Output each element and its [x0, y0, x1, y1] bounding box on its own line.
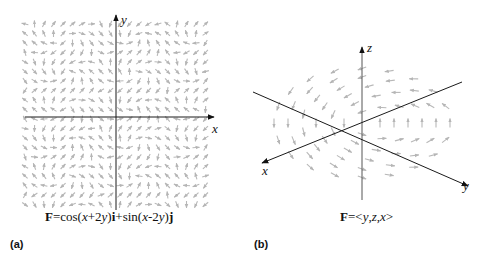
panel-label-b: (b) [254, 238, 268, 250]
caption-b: F=<y,z,x> [340, 209, 393, 225]
caption-a: F=cos(x+2y)i+sin(x-2y)j [45, 209, 173, 225]
x-axis-label-b: x [262, 163, 268, 179]
vector-field-a-arrows [22, 21, 209, 209]
y-axis-label-a: y [121, 12, 127, 28]
z-axis-label-b: z [367, 40, 372, 56]
y-axis-label-b: y [463, 178, 469, 194]
x-axis-label-a: x [212, 121, 218, 137]
y-axis-b [253, 92, 468, 186]
panel-label-a: (a) [10, 238, 23, 250]
